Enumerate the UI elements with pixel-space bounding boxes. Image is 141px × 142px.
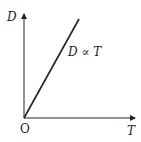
proportionality-label: D ∝ T	[67, 45, 102, 59]
x-axis-label: T	[127, 124, 136, 138]
graph: D O T D ∝ T	[0, 0, 141, 142]
origin-label: O	[20, 122, 30, 136]
y-axis-label: D	[6, 10, 17, 24]
proportional-line	[24, 19, 79, 118]
